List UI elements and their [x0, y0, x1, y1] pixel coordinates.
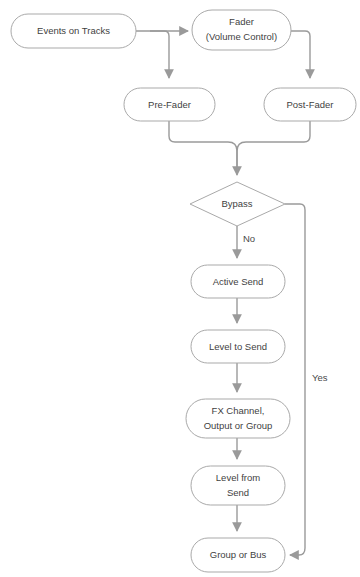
flowchart-diagram: Events on Tracks Fader (Volume Control) …: [0, 0, 360, 577]
node-bypass[interactable]: Bypass: [221, 198, 252, 209]
node-group-or-bus-label: Group or Bus: [210, 549, 267, 560]
node-fader[interactable]: Fader (Volume Control): [192, 10, 291, 50]
node-active-send[interactable]: Active Send: [191, 265, 285, 298]
node-level-to-send-label: Level to Send: [209, 341, 267, 352]
node-pre-fader-label: Pre-Fader: [148, 99, 191, 110]
flowchart-canvas: Events on Tracks Fader (Volume Control) …: [0, 0, 360, 577]
node-pre-fader[interactable]: Pre-Fader: [124, 88, 215, 121]
edge-label-yes: Yes: [312, 372, 328, 383]
node-level-to-send[interactable]: Level to Send: [191, 330, 285, 363]
node-events-on-tracks-label: Events on Tracks: [37, 25, 110, 36]
node-fader-label-line2: (Volume Control): [206, 31, 277, 42]
edge-bypass-yes-to-groupbus: [285, 204, 305, 555]
node-fader-label-line1: Fader: [229, 16, 254, 27]
edge-prefader-to-bypass: [169, 121, 237, 175]
node-fx-channel[interactable]: FX Channel, Output or Group: [186, 399, 290, 438]
edge-label-no: No: [243, 233, 255, 244]
node-post-fader-label: Post-Fader: [287, 99, 334, 110]
node-fx-channel-label-line1: FX Channel,: [212, 405, 265, 416]
node-active-send-label: Active Send: [213, 276, 264, 287]
node-level-from-send[interactable]: Level from Send: [191, 466, 285, 505]
edge-events-to-prefader: [136, 31, 169, 78]
node-bypass-label: Bypass: [221, 198, 252, 209]
node-level-from-send-label-line2: Send: [227, 487, 249, 498]
node-events-on-tracks[interactable]: Events on Tracks: [11, 14, 136, 48]
node-fx-channel-label-line2: Output or Group: [204, 420, 273, 431]
edge-fader-to-postfader: [291, 31, 310, 78]
node-post-fader[interactable]: Post-Fader: [264, 88, 356, 121]
node-group-or-bus[interactable]: Group or Bus: [191, 538, 285, 572]
node-level-from-send-label-line1: Level from: [216, 472, 260, 483]
edge-postfader-to-bypass: [237, 121, 310, 172]
